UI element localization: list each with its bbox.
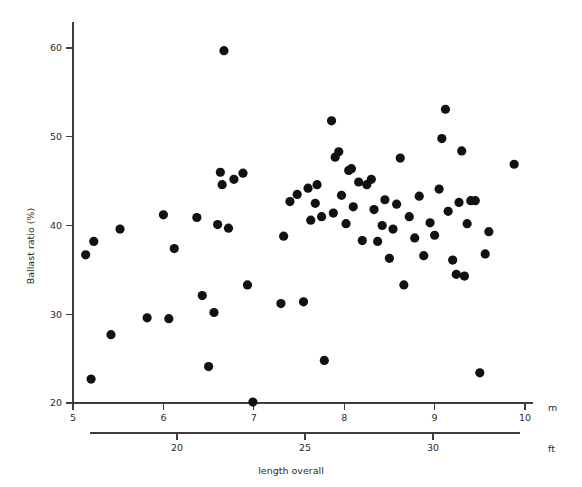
data-point	[448, 256, 457, 265]
data-point	[159, 210, 168, 219]
data-point	[143, 313, 152, 322]
data-point	[475, 368, 484, 377]
data-point	[437, 134, 446, 143]
data-point	[164, 314, 173, 323]
data-point	[378, 221, 387, 230]
data-point	[219, 46, 228, 55]
data-point	[218, 180, 227, 189]
data-point	[106, 330, 115, 339]
x-tick-label-m: 7	[251, 412, 257, 423]
x-tick-label-ft: 30	[427, 442, 439, 453]
data-point	[373, 237, 382, 246]
data-point	[396, 153, 405, 162]
y-tick-label: 50	[50, 131, 62, 142]
x-axis-meters: 5678910	[70, 403, 533, 423]
data-point	[306, 216, 315, 225]
data-point	[170, 244, 179, 253]
data-point	[399, 280, 408, 289]
data-point	[425, 218, 434, 227]
data-point	[481, 249, 490, 258]
data-point	[463, 219, 472, 228]
data-point	[471, 196, 480, 205]
x-axis-title: length overall	[258, 465, 324, 476]
data-point	[311, 199, 320, 208]
data-point	[317, 212, 326, 221]
x-tick-label-m: 8	[341, 412, 347, 423]
data-point	[320, 356, 329, 365]
data-point	[192, 213, 201, 222]
data-point	[388, 224, 397, 233]
x-tick-label-m: 5	[70, 412, 76, 423]
x-axis-unit-meters: m	[548, 402, 557, 413]
data-point	[484, 227, 493, 236]
data-point	[435, 185, 444, 194]
data-point	[369, 205, 378, 214]
data-point	[410, 233, 419, 242]
data-points-layer	[81, 46, 519, 407]
data-point	[329, 208, 338, 217]
data-point	[204, 362, 213, 371]
data-point	[293, 190, 302, 199]
data-point	[213, 220, 222, 229]
data-point	[454, 198, 463, 207]
data-point	[327, 116, 336, 125]
y-axis-title: Ballast ratio (%)	[25, 208, 36, 285]
data-point	[86, 374, 95, 383]
y-tick-label: 20	[50, 397, 62, 408]
data-point	[248, 398, 257, 407]
data-point	[460, 271, 469, 280]
data-point	[405, 212, 414, 221]
x-tick-label-ft: 20	[171, 442, 183, 453]
data-point	[349, 202, 358, 211]
data-point	[216, 168, 225, 177]
data-point	[392, 200, 401, 209]
data-point	[358, 236, 367, 245]
x-tick-label-m: 6	[160, 412, 166, 423]
y-tick-label: 30	[50, 309, 62, 320]
data-point	[441, 105, 450, 114]
data-point	[430, 231, 439, 240]
scatter-chart-figure: 2030405060 5678910 202530 Ballast ratio …	[0, 0, 582, 487]
data-point	[385, 254, 394, 263]
data-point	[81, 250, 90, 259]
data-point	[415, 192, 424, 201]
data-point	[337, 191, 346, 200]
data-point	[243, 280, 252, 289]
data-point	[299, 297, 308, 306]
x-axis-feet: 202530	[90, 433, 520, 453]
data-point	[510, 160, 519, 169]
y-tick-label: 40	[50, 220, 62, 231]
x-tick-label-ft: 25	[299, 442, 311, 453]
chart-canvas: 2030405060 5678910 202530 Ballast ratio …	[0, 0, 582, 487]
y-axis: 2030405060	[50, 22, 73, 408]
data-point	[347, 164, 356, 173]
data-point	[115, 224, 124, 233]
data-point	[341, 219, 350, 228]
data-point	[452, 270, 461, 279]
data-point	[457, 146, 466, 155]
data-point	[238, 169, 247, 178]
data-point	[354, 177, 363, 186]
data-point	[229, 175, 238, 184]
y-tick-label: 60	[50, 42, 62, 53]
data-point	[89, 237, 98, 246]
data-point	[419, 251, 428, 260]
x-tick-label-m: 9	[432, 412, 438, 423]
data-point	[276, 299, 285, 308]
data-point	[367, 175, 376, 184]
data-point	[444, 207, 453, 216]
x-tick-label-m: 10	[519, 412, 531, 423]
data-point	[224, 224, 233, 233]
data-point	[209, 308, 218, 317]
x-axis-unit-feet: ft	[548, 443, 555, 454]
data-point	[285, 197, 294, 206]
data-point	[380, 195, 389, 204]
data-point	[303, 184, 312, 193]
data-point	[334, 147, 343, 156]
data-point	[198, 291, 207, 300]
data-point	[279, 232, 288, 241]
data-point	[312, 180, 321, 189]
